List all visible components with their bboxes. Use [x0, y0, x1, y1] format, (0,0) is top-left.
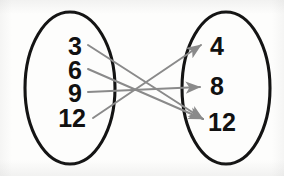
range-element-4: 4: [210, 32, 224, 60]
range-element-12: 12: [208, 108, 236, 136]
domain-element-12: 12: [58, 104, 86, 132]
diagram-canvas: 3 6 9 12 4 8 12: [0, 0, 284, 176]
arrow-6-to-12: [88, 69, 203, 119]
mapping-diagram-image: 3 6 9 12 4 8 12: [0, 0, 284, 176]
range-element-8: 8: [210, 72, 224, 100]
domain-element-9: 9: [68, 79, 82, 107]
